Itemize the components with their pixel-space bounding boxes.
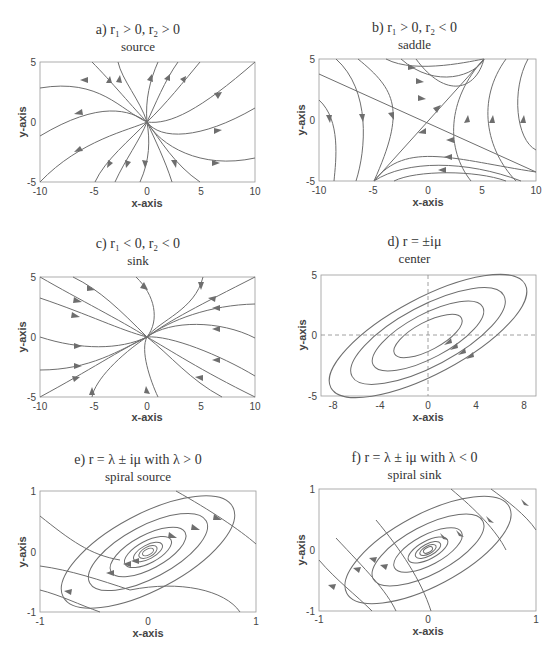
svg-text:1: 1 [253,616,259,627]
svg-text:-10: -10 [33,401,48,412]
panel-c-sink: c) r₁ < 0, r₂ < 0 sink [0,210,276,420]
panel-c-plot: 5 0 -5 -10 -5 0 5 10 x-axis y-axis [0,210,276,420]
svg-text:0: 0 [144,186,150,197]
svg-text:1: 1 [309,484,315,495]
panel-d-center: d) r = ±iμ center 5 0 -5 -8 -4 0 4 8 x-a… [276,210,553,420]
svg-text:-8: -8 [329,400,338,411]
panel-f-spiral-sink: f) r = λ ± iμ with λ < 0 spiral sink [276,420,553,650]
svg-text:5: 5 [309,54,315,65]
panel-f-plot: 1 0 -1 -1 0 1 x-axis y-axis [276,420,553,650]
svg-text:0: 0 [309,545,315,556]
svg-text:5: 5 [311,270,317,281]
panel-e-ylabel: y-axis [16,536,28,567]
svg-text:1: 1 [533,614,539,625]
svg-text:0: 0 [311,330,317,341]
panel-e-plot: 1 0 -1 -1 0 1 x-axis y-axis [0,420,276,650]
svg-text:5: 5 [30,272,36,283]
panel-a-ytick-0: 0 [30,117,36,128]
svg-text:-1: -1 [36,616,45,627]
panel-b-xlabel: x-axis [412,196,443,208]
panel-f-ylabel: y-axis [295,534,307,565]
svg-text:-5: -5 [90,186,99,197]
panel-d-plot: 5 0 -5 -8 -4 0 4 8 x-axis y-axis [276,210,553,420]
panel-f-xlabel: x-axis [412,625,443,637]
svg-text:8: 8 [521,400,527,411]
svg-text:0: 0 [425,614,431,625]
svg-text:0: 0 [30,332,36,343]
svg-text:-5: -5 [369,185,378,196]
svg-text:5: 5 [198,186,204,197]
panel-a-ylabel: y-axis [16,106,28,137]
svg-text:-5: -5 [90,401,99,412]
svg-text:4: 4 [473,400,479,411]
svg-text:0: 0 [425,185,431,196]
panel-a-xlabel: x-axis [131,197,162,209]
panel-b-ylabel: y-axis [295,104,307,135]
svg-text:1: 1 [30,486,36,497]
svg-text:0: 0 [145,616,151,627]
panel-a-source: a) r₁ > 0, r₂ > 0 source [0,0,276,210]
panel-a-plot: 5 0 -5 -10 -5 0 5 10 x-axis y-axis [0,0,276,210]
svg-text:-1: -1 [315,614,324,625]
panel-b-saddle: b) r₁ > 0, r₂ < 0 saddle [276,0,553,210]
svg-text:-10: -10 [33,186,48,197]
svg-text:-4: -4 [376,400,385,411]
svg-text:0: 0 [425,400,431,411]
panel-e-xlabel: x-axis [132,627,163,639]
panel-b-plot: 5 0 -5 -10 -5 0 5 10 x-axis y-axis [276,0,553,210]
panel-c-ylabel: y-axis [16,321,28,352]
panel-a-ytick-5: 5 [30,57,36,68]
svg-text:10: 10 [249,186,261,197]
svg-text:0: 0 [309,115,315,126]
panel-e-spiral-source: e) r = λ ± iμ with λ > 0 spiral source [0,420,276,650]
svg-text:5: 5 [198,401,204,412]
panel-d-ylabel: y-axis [296,319,308,350]
svg-text:0: 0 [30,547,36,558]
svg-text:-5: -5 [308,391,317,402]
svg-text:10: 10 [530,185,542,196]
svg-text:10: 10 [249,401,261,412]
svg-text:5: 5 [479,185,485,196]
svg-text:-10: -10 [312,185,327,196]
